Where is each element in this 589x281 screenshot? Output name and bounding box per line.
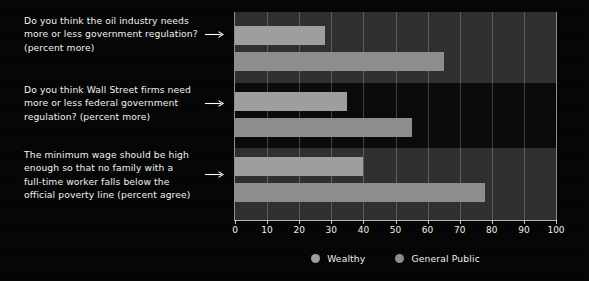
arrow-right-icon — [204, 170, 226, 179]
x-axis-tick — [396, 220, 397, 224]
bar — [235, 92, 347, 111]
gridline — [492, 12, 493, 220]
category-label-text: Do you think Wall Street firms need more… — [24, 83, 204, 123]
x-axis-tick — [428, 220, 429, 224]
category-label-row-minimumwage: The minimum wage should be high enough s… — [24, 148, 228, 202]
bar — [235, 183, 485, 202]
arrow-right-icon — [204, 99, 226, 108]
arrow-right-icon — [204, 30, 226, 39]
x-axis-tick-label: 10 — [261, 225, 272, 235]
x-axis-tick-label: 30 — [326, 225, 337, 235]
chart-screenshot: Do you think the oil industry needs more… — [0, 0, 589, 281]
chart-legend: WealthyGeneral Public — [235, 248, 556, 268]
x-axis: 0102030405060708090100 — [235, 220, 556, 238]
x-axis-tick-label: 70 — [454, 225, 465, 235]
x-axis-tick — [524, 220, 525, 224]
circle-marker-icon — [395, 254, 404, 263]
legend-label: Wealthy — [327, 253, 365, 264]
gridline — [524, 12, 525, 220]
bar — [235, 157, 363, 176]
category-label-row-wallstreet: Do you think Wall Street firms need more… — [24, 83, 228, 123]
x-axis-tick — [556, 220, 557, 224]
category-label-row-oil: Do you think the oil industry needs more… — [24, 14, 228, 54]
x-axis-tick — [331, 220, 332, 224]
x-axis-tick-label: 90 — [518, 225, 529, 235]
x-axis-tick-label: 50 — [390, 225, 401, 235]
x-axis-tick-label: 60 — [422, 225, 433, 235]
category-label-column: Do you think the oil industry needs more… — [0, 0, 228, 235]
legend-item[interactable]: General Public — [395, 253, 479, 264]
x-axis-tick-label: 100 — [547, 225, 564, 235]
x-axis-tick-label: 40 — [358, 225, 369, 235]
x-axis-tick — [235, 220, 236, 224]
x-axis-tick-label: 80 — [486, 225, 497, 235]
circle-marker-icon — [311, 254, 320, 263]
bar — [235, 118, 412, 137]
category-label-text: Do you think the oil industry needs more… — [24, 14, 204, 54]
bar — [235, 26, 325, 45]
x-axis-tick — [492, 220, 493, 224]
bar — [235, 52, 444, 71]
x-axis-tick-label: 20 — [293, 225, 304, 235]
plot-area — [235, 12, 556, 220]
legend-item[interactable]: Wealthy — [311, 253, 365, 264]
x-axis-tick — [267, 220, 268, 224]
x-axis-tick — [460, 220, 461, 224]
x-axis-tick — [363, 220, 364, 224]
plot-right-spine — [556, 12, 557, 220]
x-axis-tick — [299, 220, 300, 224]
legend-label: General Public — [411, 253, 479, 264]
y-axis-line — [234, 12, 235, 220]
category-label-text: The minimum wage should be high enough s… — [24, 148, 204, 202]
x-axis-tick-label: 0 — [232, 225, 238, 235]
